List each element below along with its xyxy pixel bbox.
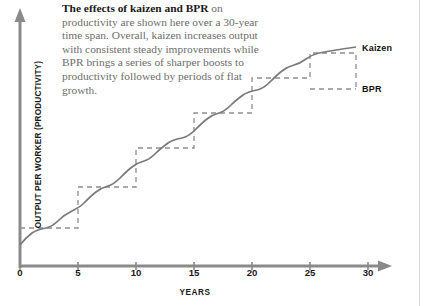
x-tick-label-0: 0 xyxy=(17,267,22,278)
x-tick-label-15: 15 xyxy=(189,267,200,278)
x-tick-label-30: 30 xyxy=(363,267,374,278)
legend-label-kaizen: Kaizen xyxy=(362,43,392,53)
series-line-kaizen xyxy=(20,47,356,245)
x-tick-label-10: 10 xyxy=(131,267,142,278)
y-axis-label: OUTPUT PER WORKER (PRODUCTIVITY) xyxy=(34,45,43,245)
x-axis-label: YEARS xyxy=(0,288,390,297)
x-tick-label-5: 5 xyxy=(75,267,80,278)
chart-figure: The effects of kaizen and BPR on product… xyxy=(0,0,424,306)
x-tick-label-20: 20 xyxy=(247,267,258,278)
plot-area xyxy=(0,0,424,306)
x-tick-label-25: 25 xyxy=(305,267,316,278)
series-line-bpr xyxy=(20,53,358,228)
y-axis xyxy=(15,8,26,268)
legend-label-bpr: BPR xyxy=(362,84,382,94)
